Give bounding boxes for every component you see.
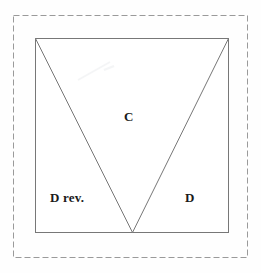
geometry-diagram bbox=[0, 0, 261, 273]
figure-canvas: C D rev. D bbox=[0, 0, 261, 273]
region-label-d-rev: D rev. bbox=[50, 191, 84, 204]
region-label-c: C bbox=[124, 110, 134, 123]
region-label-d: D bbox=[185, 191, 195, 204]
